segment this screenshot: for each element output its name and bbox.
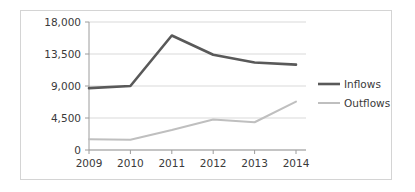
x-tick-label: 2010 xyxy=(117,157,144,169)
legend-label-inflows: Inflows xyxy=(344,78,381,90)
x-tick-label: 2012 xyxy=(200,157,227,169)
x-axis-tick-labels: 200920102011201220132014 xyxy=(76,150,310,169)
y-tick-label: 0 xyxy=(74,144,81,156)
series-line-outflows xyxy=(89,102,296,140)
y-tick-label: 18,000 xyxy=(44,16,81,28)
chart-legend: InflowsOutflows xyxy=(318,78,390,109)
legend-label-outflows: Outflows xyxy=(344,97,390,109)
x-tick-label: 2009 xyxy=(76,157,103,169)
data-series-group xyxy=(89,36,296,140)
line-chart: 04,5009,00013,50018,000 2009201020112012… xyxy=(0,0,415,192)
x-tick-label: 2011 xyxy=(158,157,185,169)
y-axis-tick-labels: 04,5009,00013,50018,000 xyxy=(44,16,89,156)
x-tick-label: 2014 xyxy=(283,157,310,169)
series-line-inflows xyxy=(89,36,296,89)
y-tick-label: 4,500 xyxy=(51,112,81,124)
x-tick-label: 2013 xyxy=(241,157,268,169)
y-tick-label: 9,000 xyxy=(51,80,81,92)
y-tick-label: 13,500 xyxy=(44,48,81,60)
